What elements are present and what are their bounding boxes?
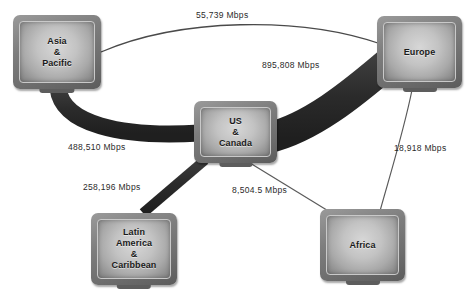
node-screen: Europe <box>383 22 456 82</box>
node-label-africa: Africa <box>349 240 375 251</box>
edge-label-us-africa: 8,504.5 Mbps <box>232 185 287 195</box>
link-asia-europe <box>101 25 381 52</box>
node-screen: Latin America & Caribbean <box>97 219 171 279</box>
node-label-europe: Europe <box>404 47 436 58</box>
node-latin-america-caribbean[interactable]: Latin America & Caribbean <box>91 213 177 285</box>
edge-label-asia-europe: 55,739 Mbps <box>196 10 248 20</box>
edge-label-us-latam: 258,196 Mbps <box>83 182 140 192</box>
network-diagram: Asia & Pacific Europe US & Canada Latin … <box>0 0 474 295</box>
link-us-latam <box>143 160 205 213</box>
node-label-us-canada: US & Canada <box>219 116 252 149</box>
node-screen: Africa <box>326 215 399 275</box>
node-us-canada[interactable]: US & Canada <box>194 101 277 163</box>
node-asia-pacific[interactable]: Asia & Pacific <box>13 15 101 89</box>
edge-label-europe-africa: 18,918 Mbps <box>394 143 446 153</box>
edge-label-us-europe: 895,808 Mbps <box>262 60 319 70</box>
edge-label-asia-us: 488,510 Mbps <box>68 142 125 152</box>
node-label-latin-america-caribbean: Latin America & Caribbean <box>112 227 157 271</box>
node-africa[interactable]: Africa <box>320 209 405 281</box>
node-screen: Asia & Pacific <box>19 21 95 83</box>
node-screen: US & Canada <box>200 107 271 157</box>
node-europe[interactable]: Europe <box>377 16 462 88</box>
link-asia-us <box>58 88 200 134</box>
node-label-asia-pacific: Asia & Pacific <box>42 36 72 69</box>
link-us-europe <box>268 60 392 138</box>
